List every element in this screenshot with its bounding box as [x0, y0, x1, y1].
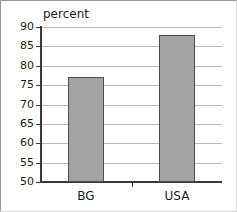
- bar-chart: percent 505560657075808590 BGUSA: [0, 0, 237, 212]
- bar-bg: [68, 77, 104, 182]
- y-tick-label-70: 70: [0, 99, 34, 110]
- image-border-top: [0, 0, 237, 1]
- y-axis-line: [40, 26, 42, 183]
- y-tick-label-75: 75: [0, 79, 34, 90]
- y-tick-label-90: 90: [0, 21, 34, 32]
- y-axis-title: percent: [43, 8, 89, 21]
- y-tick-label-85: 85: [0, 40, 34, 51]
- y-tick-label-55: 55: [0, 157, 34, 168]
- x-tick-divider-1: [132, 183, 133, 187]
- bar-usa: [159, 35, 195, 182]
- y-tick-label-50: 50: [0, 176, 34, 187]
- gridline-90: [41, 27, 222, 28]
- x-axis-label-usa: USA: [147, 189, 207, 203]
- image-border-bottom: [0, 211, 237, 212]
- x-axis-label-bg: BG: [56, 189, 116, 203]
- y-tick-label-60: 60: [0, 137, 34, 148]
- y-tick-label-80: 80: [0, 60, 34, 71]
- y-tick-label-65: 65: [0, 118, 34, 129]
- image-border-right: [236, 0, 237, 212]
